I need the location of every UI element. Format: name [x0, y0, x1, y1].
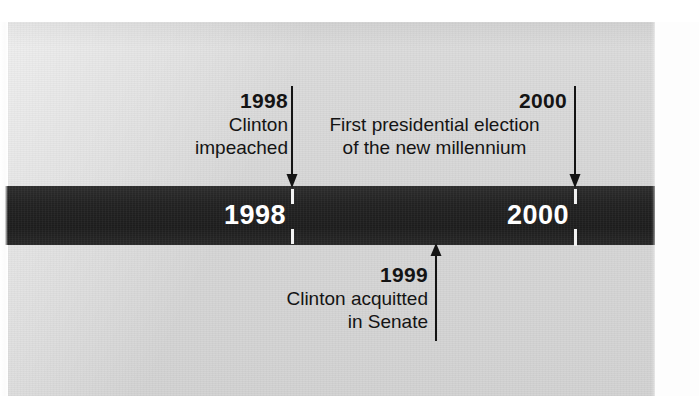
- bar-year-label-1998: 1998: [202, 200, 286, 230]
- callout-2000: 2000 First presidential election of the …: [302, 88, 576, 159]
- callout-1999-line2: in Senate: [230, 310, 428, 333]
- callout-1999-line1: Clinton acquitted: [230, 287, 428, 310]
- page-margin-left: [0, 22, 8, 396]
- page-margin-top: [0, 0, 699, 22]
- callout-1999-year: 1999: [230, 262, 428, 287]
- callout-1998-line2: impeached: [150, 136, 288, 159]
- page-margin-right: [655, 0, 699, 396]
- callout-2000-line1: First presidential election: [302, 113, 567, 136]
- tick-mark-2000-lower: [574, 229, 577, 246]
- timeline-graphic: 1998 2000 1998 Clinton impeached 2000 Fi…: [0, 0, 699, 396]
- callout-2000-year: 2000: [302, 88, 567, 113]
- bar-year-label-2000: 2000: [485, 200, 569, 230]
- callout-1999: 1999 Clinton acquitted in Senate: [230, 262, 437, 333]
- callout-1998: 1998 Clinton impeached: [150, 88, 297, 159]
- page-bleed-shadow: [8, 22, 655, 48]
- tick-mark-2000-upper: [574, 189, 577, 204]
- callout-2000-line2: of the new millennium: [302, 136, 567, 159]
- callout-1998-year: 1998: [150, 88, 288, 113]
- tick-mark-1998-lower: [291, 229, 294, 244]
- tick-mark-1998-upper: [291, 189, 294, 204]
- callout-1998-line1: Clinton: [150, 113, 288, 136]
